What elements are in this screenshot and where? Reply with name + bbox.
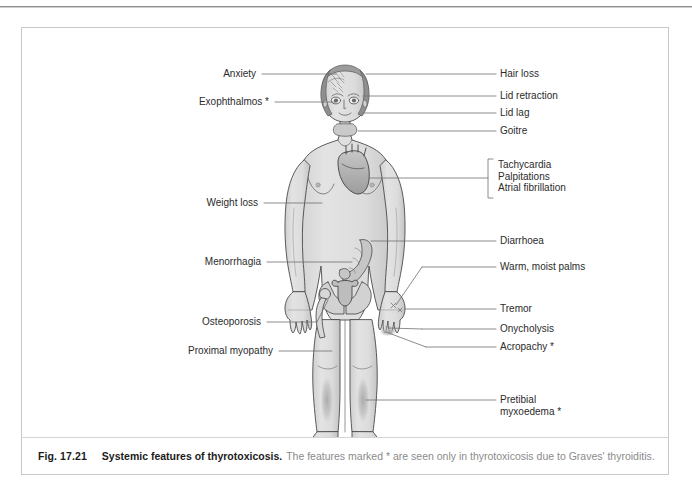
- label-menorrhagia: Menorrhagia: [205, 256, 261, 268]
- label-proximal-myopathy: Proximal myopathy: [188, 345, 273, 357]
- label-acropachy: Acropachy *: [500, 341, 554, 353]
- pretibial-patch-left: [321, 378, 333, 422]
- figure-caption: Fig. 17.21 Systemic features of thyrotox…: [22, 437, 668, 474]
- page-top-rule: [0, 6, 692, 8]
- leader-acropachy-d: [386, 332, 426, 347]
- label-osteoporosis: Osteoporosis: [202, 316, 261, 328]
- caption-title: Systemic features of thyrotoxicosis.: [102, 450, 282, 462]
- figure-artwork: Anxiety Exophthalmos * Weight loss Menor…: [22, 28, 668, 437]
- label-pretibial-line1: Pretibial: [500, 394, 561, 406]
- label-diarrhoea: Diarrhoea: [500, 235, 544, 247]
- label-tachycardia: Tachycardia: [498, 159, 566, 171]
- caption-description: The features marked * are seen only in t…: [286, 450, 655, 462]
- leader-onycholysis-d: [388, 328, 422, 329]
- label-anxiety: Anxiety: [223, 68, 256, 80]
- iris-right: [352, 98, 356, 102]
- nipple-left: [316, 183, 320, 187]
- nipple-right: [370, 183, 374, 187]
- label-hair-loss: Hair loss: [500, 68, 539, 80]
- label-onycholysis: Onycholysis: [500, 323, 554, 335]
- label-lid-lag: Lid lag: [500, 107, 529, 119]
- label-goitre: Goitre: [500, 125, 527, 137]
- goitre-thyroid: [333, 124, 356, 136]
- cardiac-bracket: [488, 159, 493, 198]
- label-weight-loss: Weight loss: [206, 197, 258, 209]
- label-lid-retraction: Lid retraction: [500, 90, 558, 102]
- label-pretibial-myxoedema: Pretibial myxoedema *: [500, 394, 561, 417]
- label-palpitations: Palpitations: [498, 171, 566, 183]
- label-atrial-fibrillation: Atrial fibrillation: [498, 182, 566, 194]
- label-tremor: Tremor: [500, 303, 532, 315]
- figure-panel: Anxiety Exophthalmos * Weight loss Menor…: [21, 27, 669, 475]
- caption-figure-number: Fig. 17.21: [38, 450, 87, 462]
- label-warm-moist-palms: Warm, moist palms: [500, 261, 585, 273]
- stomach-organ: [339, 269, 350, 280]
- label-exophthalmos: Exophthalmos *: [199, 96, 269, 108]
- label-pretibial-line2: myxoedema *: [500, 406, 561, 418]
- anatomy-illustration: [22, 28, 668, 437]
- label-group-cardiac: Tachycardia Palpitations Atrial fibrilla…: [498, 159, 566, 194]
